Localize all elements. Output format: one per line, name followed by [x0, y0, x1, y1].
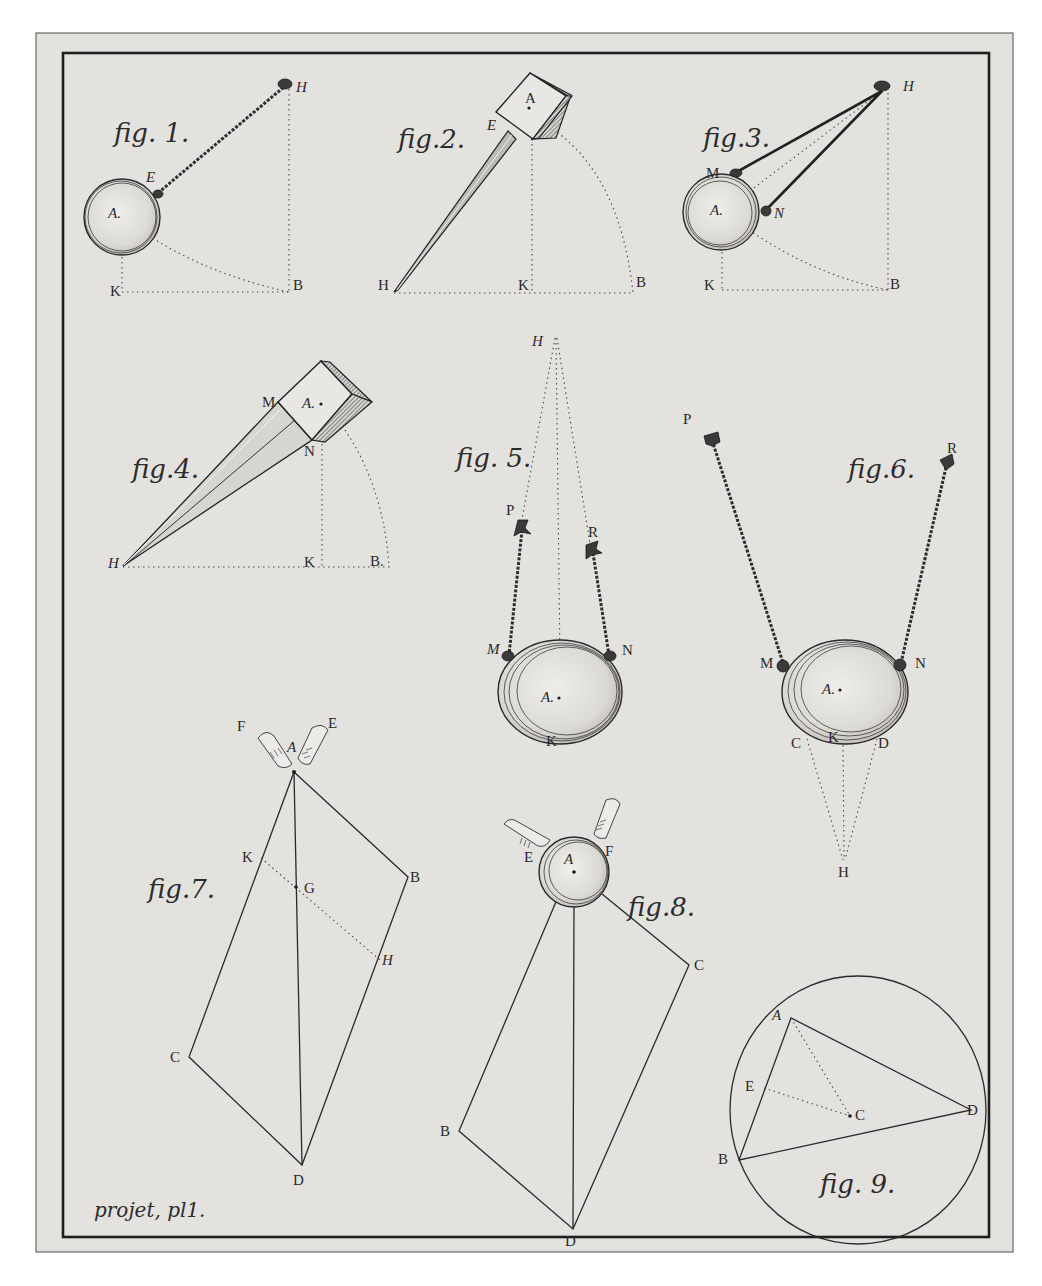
- svg-text:E: E: [328, 715, 337, 731]
- svg-text:K: K: [242, 849, 253, 865]
- svg-text:A.: A.: [540, 689, 554, 705]
- svg-text:D: D: [878, 735, 889, 751]
- svg-text:D: D: [293, 1172, 304, 1188]
- svg-text:K: K: [304, 554, 315, 570]
- svg-text:E: E: [145, 169, 155, 185]
- figure-title: fig.2.: [396, 124, 465, 154]
- svg-text:F: F: [237, 718, 245, 734]
- svg-text:K: K: [704, 277, 715, 293]
- engraved-plate: fig. 1. H E A. K B fig.2. A E H K: [0, 0, 1042, 1286]
- svg-text:M: M: [262, 394, 275, 410]
- svg-text:B: B: [636, 274, 646, 290]
- svg-text:A: A: [286, 739, 297, 755]
- svg-text:R: R: [947, 440, 957, 456]
- svg-text:A.: A.: [821, 681, 835, 697]
- svg-text:A: A: [525, 90, 536, 106]
- svg-text:H: H: [295, 79, 308, 95]
- svg-text:F: F: [605, 843, 613, 859]
- svg-text:N: N: [773, 205, 785, 221]
- figure-title: fig.7.: [146, 874, 215, 904]
- svg-text:A: A: [771, 1007, 782, 1023]
- svg-text:D: D: [967, 1102, 978, 1118]
- svg-text:K: K: [828, 729, 839, 745]
- svg-text:A.: A.: [107, 205, 121, 221]
- svg-text:E: E: [745, 1078, 754, 1094]
- svg-text:C: C: [170, 1049, 180, 1065]
- svg-text:M: M: [706, 165, 719, 181]
- svg-text:H: H: [838, 864, 849, 880]
- svg-text:E: E: [524, 849, 533, 865]
- figure-title: fig. 5.: [454, 443, 531, 473]
- figure-title: fig. 9.: [818, 1169, 895, 1199]
- svg-text:N: N: [915, 655, 926, 671]
- svg-text:R: R: [588, 524, 598, 540]
- svg-text:M: M: [486, 641, 501, 657]
- figure-title: fig.6.: [846, 454, 915, 484]
- svg-text:H: H: [531, 333, 544, 349]
- svg-text:H: H: [107, 555, 120, 571]
- ball: [84, 179, 160, 255]
- svg-text:B: B: [293, 277, 303, 293]
- svg-text:H: H: [378, 277, 389, 293]
- svg-text:A: A: [563, 851, 574, 867]
- svg-text:N: N: [622, 642, 633, 658]
- figure-title: fig. 1.: [112, 118, 189, 148]
- svg-text:H: H: [902, 78, 915, 94]
- svg-text:B: B: [718, 1151, 728, 1167]
- svg-text:H: H: [381, 952, 394, 968]
- rope-anchor-knot: [278, 79, 292, 89]
- svg-text:B.: B.: [370, 553, 384, 569]
- svg-text:P: P: [683, 411, 691, 427]
- plate-caption: projet, pl1.: [94, 1198, 205, 1222]
- figure-title: fig.4.: [130, 454, 199, 484]
- figure-title: fig.8.: [626, 892, 695, 922]
- svg-text:G: G: [304, 880, 315, 896]
- svg-text:K: K: [110, 283, 121, 299]
- svg-text:C: C: [855, 1107, 865, 1123]
- svg-text:N: N: [304, 443, 315, 459]
- svg-text:C: C: [791, 735, 801, 751]
- svg-text:K: K: [546, 733, 557, 749]
- svg-text:B: B: [410, 869, 420, 885]
- svg-text:D: D: [565, 1233, 576, 1249]
- svg-text:E: E: [486, 117, 496, 133]
- svg-text:A.: A.: [709, 202, 723, 218]
- svg-text:P: P: [506, 502, 514, 518]
- svg-text:A.: A.: [301, 395, 315, 411]
- svg-text:M: M: [760, 655, 773, 671]
- svg-text:B: B: [890, 276, 900, 292]
- figure-title: fig.3.: [701, 123, 770, 153]
- svg-text:B: B: [440, 1123, 450, 1139]
- svg-text:C: C: [694, 957, 704, 973]
- svg-text:K: K: [518, 277, 529, 293]
